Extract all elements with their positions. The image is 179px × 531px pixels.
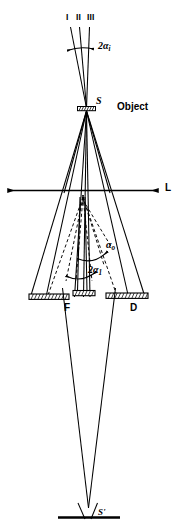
illumination-aperture-label: 2αi: [98, 41, 111, 53]
illumination-angle-arc-path: [68, 48, 94, 51]
focal-plane-stop-label: F: [64, 303, 70, 313]
incident-beam-III-line: [87, 27, 90, 108]
specimen-object-group: [78, 107, 96, 111]
image-point-label: S': [98, 508, 106, 517]
aperture-stop-right-group: [106, 293, 148, 298]
incident-beam-I-line: [71, 27, 87, 108]
illumination-aperture-label-main: 2α: [98, 40, 109, 51]
convergent-cone-left-edge: [63, 288, 89, 508]
dashed-ray-left: [66, 197, 83, 281]
convergent-cone-right-edge: [89, 288, 116, 508]
collection-semi-angle-label-sub: o: [112, 244, 116, 252]
objective-aperture-angle-label: 2α1: [88, 265, 102, 277]
beam-label-II: II: [76, 13, 81, 22]
incident-beam-II-line: [80, 27, 87, 108]
optical-diagram-figure: I II III 2αi S Object L αo 2α1 F D S': [0, 0, 179, 531]
illumination-aperture-label-sub: i: [109, 45, 111, 53]
alpha-o-arc-path: [77, 252, 108, 261]
scattered-ray-cross-right: [87, 111, 111, 193]
aperture-stop-center-group: [73, 291, 95, 296]
objective-aperture-angle-label-sub: 1: [99, 269, 103, 277]
diaphragm-label: D: [130, 303, 137, 313]
incident-beam-group: [71, 27, 90, 108]
illumination-angle-arc-group: [68, 48, 94, 51]
optic-axis-label: L: [165, 183, 171, 193]
beam-label-III: III: [87, 13, 95, 22]
beam-label-I: I: [66, 13, 69, 22]
object-label: Object: [117, 102, 148, 112]
collection-semi-angle-label: αo: [106, 240, 115, 252]
source-point-label: S: [96, 96, 102, 106]
objective-aperture-angle-label-main: 2α: [88, 264, 99, 275]
scattered-ray-cross-left: [64, 111, 87, 193]
convergent-cone-group: [63, 288, 116, 519]
